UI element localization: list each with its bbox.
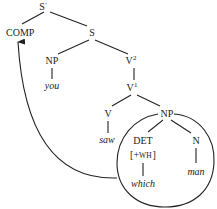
edge-sbar-s — [50, 12, 87, 26]
edge-sbar-comp — [22, 12, 44, 24]
edge-v1-np — [137, 95, 160, 106]
word-which: which — [131, 178, 155, 189]
node-v: V — [104, 108, 112, 119]
word-saw: saw — [99, 134, 115, 145]
word-man: man — [187, 166, 204, 177]
word-you: you — [44, 80, 59, 91]
node-comp: COMP — [6, 27, 35, 38]
node-v1: V1 — [126, 81, 138, 93]
node-np-subject: NP — [46, 55, 59, 66]
node-s: S — [89, 27, 95, 38]
det-feature-wh: [+WH] — [130, 149, 156, 160]
edge-np-det — [148, 120, 163, 132]
np-circle — [117, 114, 214, 207]
edge-v1-v — [112, 95, 131, 106]
node-v2: V2 — [125, 54, 137, 66]
syntax-tree-diagram: S′ COMP S NP you V2 V1 V saw NP DET [+WH… — [0, 0, 217, 209]
node-n: N — [192, 135, 199, 146]
edge-np-n — [171, 120, 191, 133]
edge-s-np — [58, 40, 89, 54]
tree-edges — [22, 12, 196, 176]
node-s-bar: S′ — [39, 1, 47, 12]
movement-arrow — [18, 42, 117, 178]
edge-s-v2 — [95, 40, 128, 54]
tree-labels: S′ COMP S NP you V2 V1 V saw NP DET [+WH… — [6, 1, 205, 189]
node-det: DET — [133, 135, 152, 146]
node-np-object: NP — [161, 108, 174, 119]
